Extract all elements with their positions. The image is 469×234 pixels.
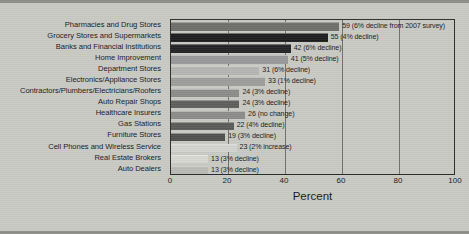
figure-top-rule [0,0,469,3]
bar-value-label: 23 (2% increase) [237,144,292,151]
bar-row: 19 (3% decline) [171,131,454,142]
bar-row: 24 (3% decline) [171,87,454,98]
category-label: Pharmacies and Drug Stores [0,19,166,30]
category-label: Cell Phones and Wireless Service [0,141,166,152]
category-label: Grocery Stores and Supermarkets [0,30,166,41]
category-label: Electronics/Appliance Stores [0,74,166,85]
category-label: Real Estate Brokers [0,152,166,163]
bar-row: 13 (3% decline) [171,165,454,176]
bar [171,22,339,31]
bar-value-label: 31 (6% decline) [259,67,310,74]
bar-value-label: 19 (3% decline) [225,133,276,140]
bar-row: 42 (6% decline) [171,43,454,54]
bar [171,155,208,164]
bar [171,122,234,131]
x-tick-label: 60 [337,176,346,185]
x-tick-label: 80 [394,176,403,185]
bar [171,133,225,142]
category-label: Gas Stations [0,118,166,129]
category-label: Department Stores [0,63,166,74]
bar-row: 23 (2% increase) [171,143,454,154]
figure-bottom-rule [0,231,469,234]
bar [171,111,245,120]
bar [171,100,239,109]
bar-value-label: 33 (1% decline) [265,78,316,85]
bar [171,77,265,86]
bar-row: 24 (3% decline) [171,98,454,109]
bar-row: 26 (no change) [171,109,454,120]
bar-value-label: 13 (3% decline) [208,156,259,163]
bar-row: 33 (1% decline) [171,76,454,87]
bar-value-label: 26 (no change) [245,111,294,118]
x-axis-ticks: 020406080100 [170,176,455,190]
bar [171,33,328,42]
bar-value-label: 24 (3% decline) [239,100,290,107]
bar-value-label: 22 (4% decline) [234,122,285,129]
bar-row: 13 (3% decline) [171,154,454,165]
bar-value-label: 55 (4% decline) [328,34,379,41]
bar-row: 55 (4% decline) [171,32,454,43]
x-tick-label: 100 [448,176,461,185]
bar [171,55,288,64]
bar-value-label: 42 (6% decline) [291,45,342,52]
category-label: Home Improvement [0,52,166,63]
bar-row: 22 (4% decline) [171,120,454,131]
category-label: Auto Repair Shops [0,96,166,107]
bar-chart: Pharmacies and Drug StoresGrocery Stores… [0,6,469,228]
bar-series: 59 (6% decline from 2007 survey)55 (4% d… [171,21,454,176]
bar-row: 41 (5% decline) [171,54,454,65]
bar [171,89,239,98]
category-label: Furniture Stores [0,129,166,140]
bar [171,166,208,175]
category-label: Contractors/Plumbers/Electricians/Roofer… [0,85,166,96]
bar-row: 59 (6% decline from 2007 survey) [171,21,454,32]
category-label: Healthcare Insurers [0,107,166,118]
bar [171,44,291,53]
x-axis-title: Percent [170,190,455,202]
x-tick-label: 40 [280,176,289,185]
bar-value-label: 41 (5% decline) [288,56,339,63]
category-axis-labels: Pharmacies and Drug StoresGrocery Stores… [0,19,166,174]
category-label: Banks and Financial Institutions [0,41,166,52]
x-tick-label: 20 [223,176,232,185]
plot-area: 59 (6% decline from 2007 survey)55 (4% d… [170,19,455,175]
bar-value-label: 59 (6% decline from 2007 survey) [339,23,445,30]
category-label: Auto Dealers [0,163,166,174]
bar-row: 31 (6% decline) [171,65,454,76]
bar-value-label: 24 (3% decline) [239,89,290,96]
bar [171,66,259,75]
figure-container: Pharmacies and Drug StoresGrocery Stores… [0,0,469,234]
bar [171,144,237,153]
bar-value-label: 13 (3% decline) [208,167,259,174]
x-tick-label: 0 [168,176,172,185]
